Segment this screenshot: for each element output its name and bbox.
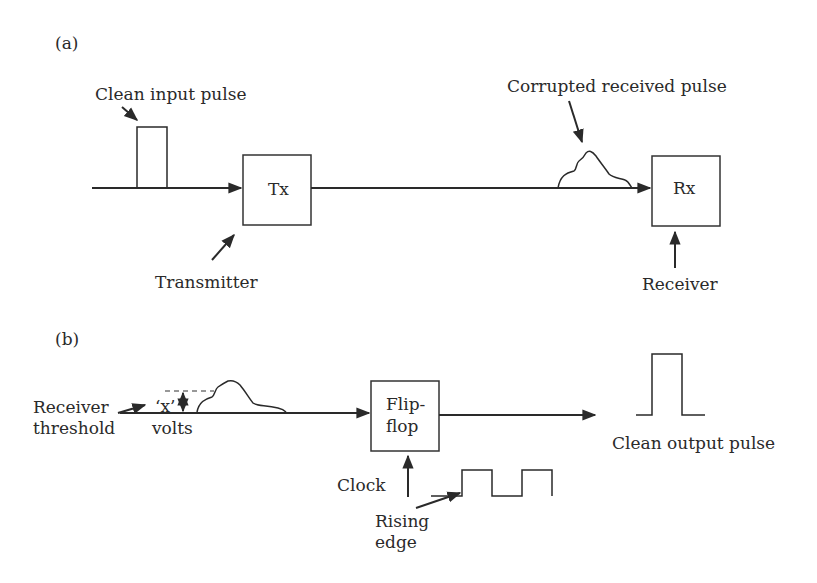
clock-waveform — [431, 470, 552, 496]
corrupted-pulse-pointer-arrow — [569, 101, 582, 142]
transmitter-label: Transmitter — [155, 272, 259, 292]
transmitter-pointer-arrow — [212, 235, 234, 260]
tx-label: Tx — [268, 179, 289, 199]
clean-output-pulse-shape — [636, 354, 705, 415]
corrupted-pulse-label: Corrupted received pulse — [507, 76, 727, 96]
input-pulse-pointer-arrow — [122, 107, 137, 120]
rising-edge-label-line1: Rising — [375, 511, 429, 531]
panel-a: (a) Clean input pulse Tx Transmitter Cor… — [55, 33, 727, 294]
receiver-threshold-label-line2: threshold — [33, 418, 115, 438]
communication-diagram: (a) Clean input pulse Tx Transmitter Cor… — [0, 0, 817, 583]
volts-label: volts — [151, 418, 193, 438]
clean-input-pulse-label: Clean input pulse — [95, 84, 247, 104]
threshold-pointer-arrow — [118, 405, 145, 413]
flipflop-label-line1: Flip- — [386, 394, 425, 414]
panel-b-label: (b) — [55, 329, 79, 349]
corrupted-received-pulse-shape — [558, 151, 632, 188]
flipflop-label-line2: flop — [386, 416, 419, 436]
receiver-threshold-label-line1: Receiver — [33, 397, 110, 417]
receiver-label: Receiver — [642, 274, 719, 294]
panel-a-label: (a) — [55, 33, 78, 53]
clock-label: Clock — [337, 475, 386, 495]
rx-label: Rx — [673, 178, 696, 198]
clean-output-pulse-label: Clean output pulse — [612, 433, 775, 453]
rising-edge-label-line2: edge — [375, 532, 417, 552]
clean-input-pulse-shape — [137, 127, 167, 188]
panel-b: (b) Receiver threshold ‘x’ volts Flip- f… — [33, 329, 775, 552]
corrupted-pulse-shape-b — [197, 381, 286, 412]
